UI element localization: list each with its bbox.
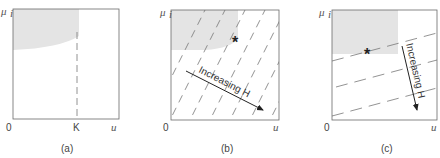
origin-label: 0 bbox=[6, 122, 12, 133]
origin-label: 0 bbox=[163, 122, 169, 133]
optimum-marker: * bbox=[364, 46, 371, 63]
optimum-marker: * bbox=[232, 34, 239, 51]
shaded-region bbox=[13, 9, 79, 50]
y-axis-label: μ bbox=[159, 6, 166, 18]
figure: μ i 0 K u (a) * Increasing H μ i 0 u (b) bbox=[0, 0, 440, 158]
y-axis-sub: i bbox=[10, 7, 13, 19]
panel-caption: (c) bbox=[381, 143, 393, 154]
y-axis-label: μ bbox=[0, 5, 7, 17]
origin-label: 0 bbox=[324, 122, 330, 133]
panel-caption: (a) bbox=[61, 143, 73, 154]
panel-caption: (b) bbox=[221, 143, 233, 154]
panel-c: * Increasing H μ i 0 u (c) bbox=[318, 6, 437, 154]
y-axis-label: μ bbox=[318, 6, 325, 18]
k-tick-label: K bbox=[73, 122, 80, 133]
arrow-label: Increasing H bbox=[197, 64, 252, 99]
y-axis-sub: i bbox=[328, 8, 331, 20]
shaded-region bbox=[171, 10, 238, 50]
x-axis-label: u bbox=[273, 121, 279, 133]
y-axis-sub: i bbox=[169, 8, 172, 20]
x-axis-label: u bbox=[111, 121, 117, 133]
panel-a: μ i 0 K u (a) bbox=[0, 5, 119, 154]
panel-b: * Increasing H μ i 0 u (b) bbox=[159, 0, 340, 154]
x-axis-label: u bbox=[431, 121, 437, 133]
